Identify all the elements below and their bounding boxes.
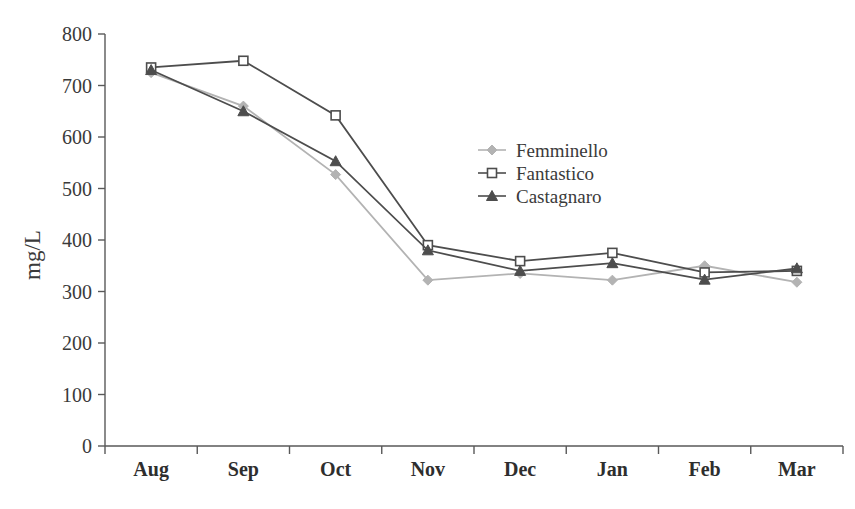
y-tick-label: 0 [82, 435, 92, 457]
y-tick-label: 100 [62, 384, 92, 406]
data-point-marker [607, 275, 617, 285]
y-tick-label: 200 [62, 332, 92, 354]
legend-label: Femminello [516, 140, 608, 161]
y-tick-label: 400 [62, 229, 92, 251]
data-point-marker [608, 248, 617, 257]
data-point-marker [239, 56, 248, 65]
series-line [151, 70, 797, 280]
series-line [151, 73, 797, 283]
data-point-marker [331, 111, 340, 120]
legend-label: Castagnaro [516, 186, 601, 207]
y-axis: 0100200300400500600700800 [62, 23, 105, 457]
x-tick-label: Aug [133, 458, 169, 481]
series-fantastico [147, 56, 802, 277]
x-tick-label: Mar [778, 458, 816, 480]
x-tick-label: Oct [320, 458, 351, 480]
data-point-marker [330, 156, 341, 166]
series-castagnaro [146, 65, 803, 285]
y-tick-label: 700 [62, 75, 92, 97]
x-tick-label: Feb [689, 458, 721, 480]
x-tick-label: Jan [597, 458, 628, 480]
y-tick-label: 500 [62, 178, 92, 200]
y-tick-label: 300 [62, 281, 92, 303]
data-point-marker [792, 277, 802, 287]
legend-item-femminello[interactable]: Femminello [478, 140, 608, 161]
y-axis-title: mg/L [20, 230, 45, 280]
x-tick-label: Sep [228, 458, 259, 481]
series-femminello [146, 68, 802, 288]
chart-legend: FemminelloFantasticoCastagnaro [478, 140, 608, 207]
y-tick-label: 800 [62, 23, 92, 45]
chart-container: 0100200300400500600700800 AugSepOctNovDe… [0, 0, 855, 509]
legend-item-fantastico[interactable]: Fantastico [478, 163, 594, 184]
data-point-marker [488, 169, 497, 178]
data-point-marker [516, 257, 525, 266]
legend-label: Fantastico [516, 163, 594, 184]
data-series-group [146, 56, 803, 287]
x-tick-label: Nov [411, 458, 445, 480]
data-point-marker [487, 145, 497, 155]
y-tick-label: 600 [62, 126, 92, 148]
line-chart: 0100200300400500600700800 AugSepOctNovDe… [0, 0, 855, 509]
legend-item-castagnaro[interactable]: Castagnaro [478, 186, 601, 207]
x-axis: AugSepOctNovDecJanFebMar [105, 446, 843, 481]
series-line [151, 61, 797, 273]
x-tick-label: Dec [504, 458, 536, 480]
